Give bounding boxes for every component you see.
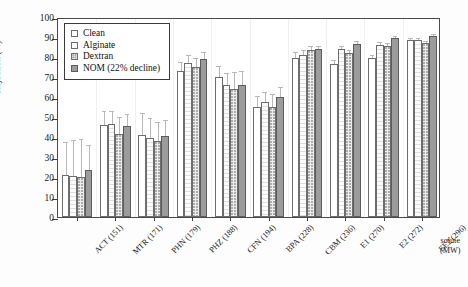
error-bar-cap [239,71,244,72]
error-bar [66,142,67,177]
error-bar-cap [216,66,221,67]
error-bar-cap [140,113,145,114]
x-axis-title: solute (MW) [440,236,460,257]
x-tick-label: CFN (194) [246,223,278,255]
bar [391,38,399,217]
y-tick-label: 20 [45,174,55,184]
error-bar-cap [316,46,321,47]
group-separator [364,19,365,217]
legend-label: Clean [83,29,105,38]
x-tick [307,217,308,221]
error-bar-cap [163,120,168,121]
error-bar-cap [117,117,122,118]
x-tick [230,217,231,221]
y-tick-label: 60 [45,94,55,104]
error-bar-cap [385,43,390,44]
bar [253,107,261,217]
y-tick-label: 100 [40,14,54,24]
error-bar-cap [416,38,421,39]
bar [299,55,307,217]
y-tick-label: 40 [45,134,55,144]
error-bar-cap [193,58,198,59]
x-tick-label: PHN (179) [169,223,201,255]
bar-group [215,19,246,217]
error-bar-cap [393,36,398,37]
y-tick-label: 50 [45,114,55,124]
y-tick-label: 30 [45,154,55,164]
bar [353,44,361,217]
error-bar-cap [178,62,183,63]
error-bar-cap [331,60,336,61]
bar [69,176,77,217]
group-separator [211,19,212,217]
group-separator [250,19,251,217]
error-bar-cap [308,46,313,47]
legend-item[interactable]: Alginate [71,40,160,52]
group-separator [173,19,174,217]
bar [192,67,200,217]
error-bar-cap [155,122,160,123]
error-bar-cap [232,72,237,73]
legend-item[interactable]: Dextran [71,51,160,63]
error-bar [158,122,159,143]
bar-group [292,19,323,217]
bar [146,138,154,217]
error-bar-cap [370,55,375,56]
error-bar-cap [301,50,306,51]
error-bar-cap [102,111,107,112]
bar [200,59,208,217]
bar [429,36,437,217]
legend-label: Alginate [83,41,115,50]
x-tick [269,217,270,221]
legend-label: NOM (22% decline) [83,64,160,73]
bar [261,102,269,217]
error-bar [81,139,82,179]
x-tick-label: MTR (171) [132,223,165,256]
legend-item[interactable]: NOM (22% decline) [71,63,160,75]
x-tick [345,217,346,221]
legend-swatch-icon [71,53,78,60]
group-separator [288,19,289,217]
error-bar-cap [431,34,436,35]
x-tick [422,217,423,221]
chart-legend: CleanAlginateDextranNOM (22% decline) [64,23,170,80]
error-bar-cap [71,140,76,141]
bar [338,49,346,217]
bar [123,126,131,217]
bar [100,125,108,217]
x-tick-label: ACT (151) [93,223,125,255]
bar [161,136,169,217]
bar [376,45,384,217]
x-tick [154,217,155,221]
bar [368,58,376,217]
bar [85,170,93,217]
y-tick-label: 80 [45,54,55,64]
error-bar-cap [408,38,413,39]
error-bar [142,113,143,137]
x-tick [115,217,116,221]
y-axis-title: Rejection (%) [0,40,2,93]
error-bar [150,118,151,140]
error-bar [73,140,74,178]
bar [215,77,223,217]
y-tick-label: 90 [45,34,55,44]
error-bar [89,145,90,172]
x-tick-label: E1 (270) [359,223,386,250]
legend-swatch-icon [71,30,78,37]
x-tick-label: BPA (228) [284,223,315,254]
error-bar-cap [148,118,153,119]
bar [115,134,123,217]
group-separator [326,19,327,217]
error-bar-cap [347,50,352,51]
x-tick [192,217,193,221]
legend-item[interactable]: Clean [71,28,160,40]
error-bar-cap [423,41,428,42]
bar-group [368,19,399,217]
bar-group [177,19,208,217]
x-tick-label: CBM (236) [323,223,357,257]
bar [384,46,392,217]
bar [269,107,277,217]
error-bar-cap [109,111,114,112]
error-bar-cap [270,94,275,95]
bar [292,58,300,217]
